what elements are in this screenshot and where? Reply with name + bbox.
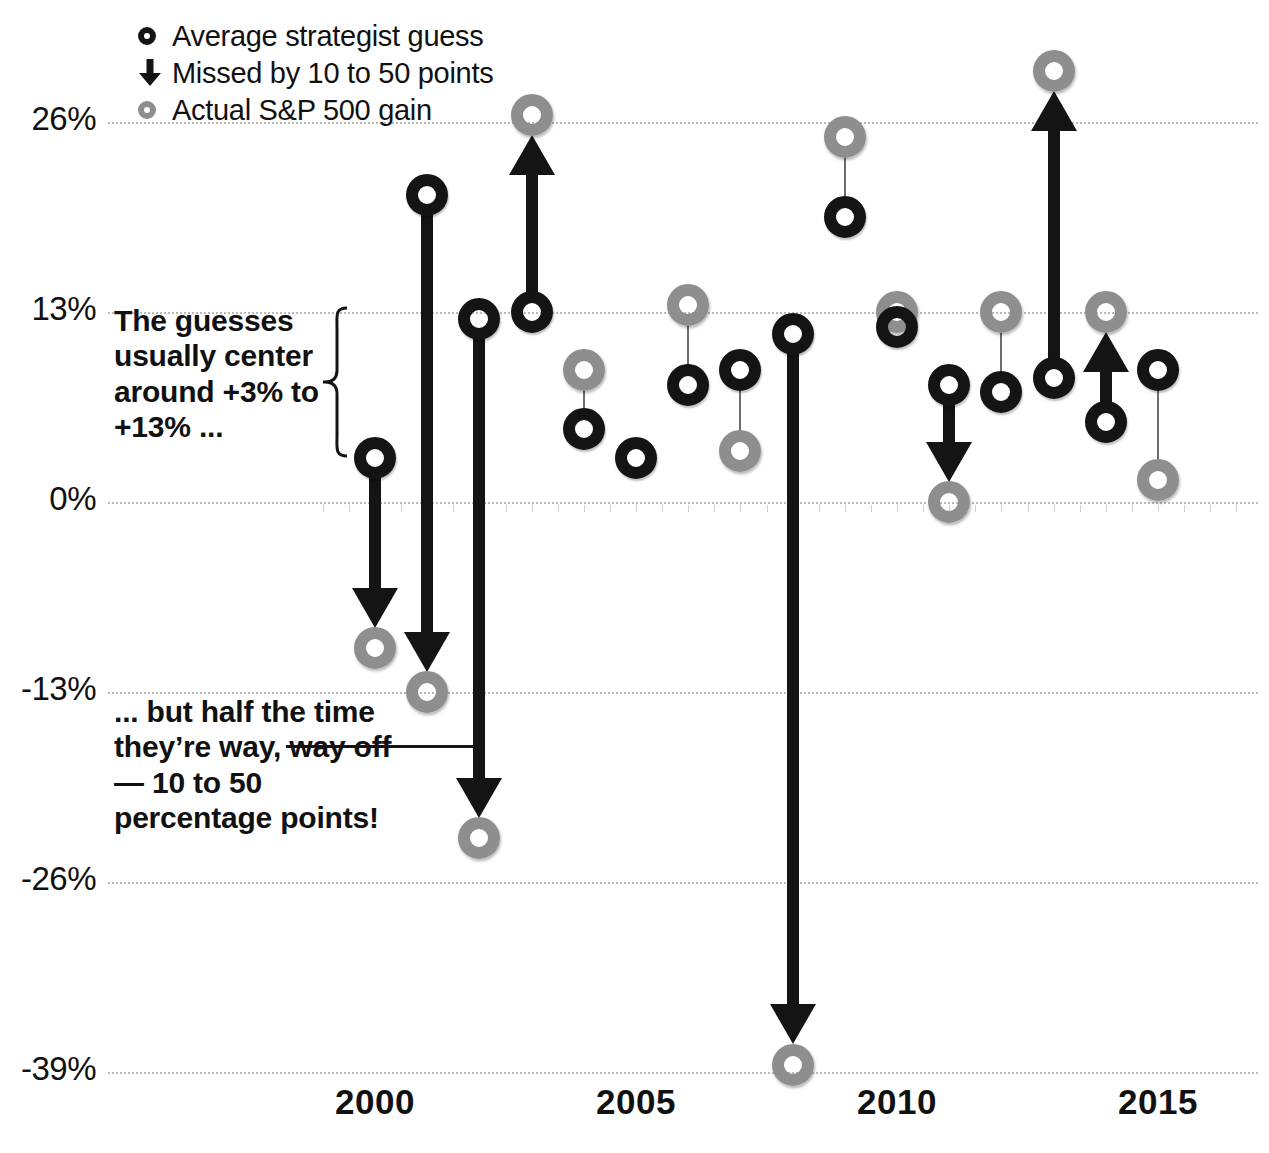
strategist-guess-marker[interactable] xyxy=(511,291,553,333)
x-axis-tick xyxy=(584,505,585,512)
actual-gain-marker[interactable] xyxy=(354,627,396,669)
x-axis-tick xyxy=(897,505,898,512)
pair-connector xyxy=(687,324,689,365)
x-axis-label: 2000 xyxy=(335,1082,415,1122)
y-axis-label: -13% xyxy=(21,670,96,708)
dark-ring-icon xyxy=(138,27,172,45)
x-axis-tick xyxy=(558,505,559,512)
up-arrow-icon xyxy=(509,135,555,175)
actual-gain-marker[interactable] xyxy=(458,817,500,859)
x-axis-tick xyxy=(767,505,768,512)
actual-gain-marker[interactable] xyxy=(667,284,709,326)
x-axis-tick xyxy=(871,505,872,512)
strategist-guess-marker[interactable] xyxy=(1085,401,1127,443)
y-axis-label: 26% xyxy=(31,100,96,138)
actual-gain-marker[interactable] xyxy=(928,481,970,523)
x-axis-tick xyxy=(923,505,924,512)
actual-gain-marker[interactable] xyxy=(980,291,1022,333)
down-arrow-icon xyxy=(138,59,172,87)
x-axis-tick xyxy=(349,505,350,512)
strategist-guess-marker[interactable] xyxy=(824,196,866,238)
up-arrow-icon xyxy=(1031,91,1077,131)
actual-gain-marker[interactable] xyxy=(719,430,761,472)
down-arrow-icon xyxy=(926,442,972,482)
actual-gain-marker[interactable] xyxy=(1033,50,1075,92)
x-axis-tick xyxy=(506,505,507,512)
legend: Average strategist guess Missed by 10 to… xyxy=(138,18,538,129)
actual-gain-marker[interactable] xyxy=(406,671,448,713)
strategist-guess-marker[interactable] xyxy=(772,313,814,355)
x-axis-tick xyxy=(975,505,976,512)
strategist-guess-marker[interactable] xyxy=(1033,357,1075,399)
x-axis-tick xyxy=(401,505,402,512)
x-axis-tick xyxy=(845,505,846,512)
annotation-leader-line xyxy=(286,745,476,748)
pair-connector xyxy=(1000,332,1002,373)
pair-connector xyxy=(1157,390,1159,460)
x-axis-tick xyxy=(740,505,741,512)
gray-ring-icon xyxy=(138,101,172,119)
down-arrow-icon xyxy=(770,1004,816,1044)
miss-arrow-shaft xyxy=(421,213,433,653)
annotation-bottom: ... but half the time they’re way, way o… xyxy=(114,694,399,836)
brace-icon xyxy=(323,306,349,458)
strategist-guess-marker[interactable] xyxy=(563,408,605,450)
pair-connector xyxy=(583,390,585,409)
x-axis-tick xyxy=(1158,505,1159,512)
pair-connector xyxy=(739,390,741,431)
legend-label-actual: Actual S&P 500 gain xyxy=(172,94,432,127)
gridline-0 xyxy=(108,502,1258,504)
legend-item-guess: Average strategist guess xyxy=(138,18,538,54)
x-axis-tick xyxy=(662,505,663,512)
miss-arrow-shaft xyxy=(473,337,485,799)
chart-canvas: 26%13%0%-13%-26%-39% 2000200520102015 Av… xyxy=(0,0,1269,1153)
strategist-guess-marker[interactable] xyxy=(354,437,396,479)
x-axis-tick xyxy=(1184,505,1185,512)
legend-item-missed: Missed by 10 to 50 points xyxy=(138,55,538,91)
x-axis-label: 2010 xyxy=(857,1082,937,1122)
x-axis-tick xyxy=(1028,505,1029,512)
x-axis-tick xyxy=(1132,505,1133,512)
strategist-guess-marker[interactable] xyxy=(1137,349,1179,391)
x-axis-tick xyxy=(1236,505,1237,512)
gridline-neg26 xyxy=(108,882,1258,884)
down-arrow-icon xyxy=(352,588,398,628)
x-axis-tick xyxy=(1106,505,1107,512)
x-axis-tick xyxy=(1001,505,1002,512)
y-axis-label: -26% xyxy=(21,860,96,898)
actual-gain-marker[interactable] xyxy=(772,1044,814,1086)
x-axis-tick xyxy=(610,505,611,512)
down-arrow-icon xyxy=(456,778,502,818)
x-axis-tick xyxy=(1210,505,1211,512)
x-axis-label: 2005 xyxy=(596,1082,676,1122)
y-axis-label: 0% xyxy=(49,480,96,518)
actual-gain-marker[interactable] xyxy=(824,116,866,158)
strategist-guess-marker[interactable] xyxy=(980,371,1022,413)
legend-label-guess: Average strategist guess xyxy=(172,20,483,53)
actual-gain-marker[interactable] xyxy=(563,349,605,391)
x-axis-tick xyxy=(453,505,454,512)
strategist-guess-marker[interactable] xyxy=(667,364,709,406)
x-axis-tick xyxy=(714,505,715,512)
miss-arrow-shaft xyxy=(1048,109,1060,359)
x-axis-tick xyxy=(688,505,689,512)
strategist-guess-marker[interactable] xyxy=(458,298,500,340)
x-axis-tick xyxy=(819,505,820,512)
x-axis-tick xyxy=(1054,505,1055,512)
up-arrow-icon xyxy=(1083,332,1129,372)
x-axis-tick xyxy=(1080,505,1081,512)
actual-gain-marker[interactable] xyxy=(1085,291,1127,333)
strategist-guess-marker[interactable] xyxy=(928,364,970,406)
strategist-guess-marker[interactable] xyxy=(876,306,918,348)
actual-gain-marker[interactable] xyxy=(1137,459,1179,501)
y-axis-label: 13% xyxy=(31,290,96,328)
y-axis-label: -39% xyxy=(21,1050,96,1088)
x-axis-tick xyxy=(323,505,324,512)
gridline-neg39 xyxy=(108,1072,1258,1074)
strategist-guess-marker[interactable] xyxy=(406,174,448,216)
strategist-guess-marker[interactable] xyxy=(615,437,657,479)
x-axis-tick xyxy=(532,505,533,512)
down-arrow-icon xyxy=(404,632,450,672)
annotation-top: The guesses usually center around +3% to… xyxy=(114,303,339,445)
strategist-guess-marker[interactable] xyxy=(719,349,761,391)
